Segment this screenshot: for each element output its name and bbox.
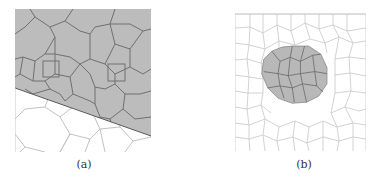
- caption-b: (b): [284, 158, 324, 171]
- quad-mesh-diagram: [235, 13, 366, 151]
- polygon-mesh-diagram: [15, 9, 151, 152]
- caption-a: (a): [64, 158, 104, 171]
- panel-a: [15, 9, 151, 152]
- panel-b: [235, 13, 366, 151]
